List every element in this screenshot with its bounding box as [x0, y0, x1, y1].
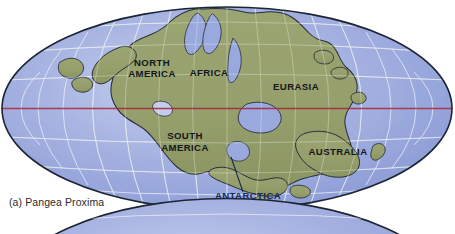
island-east-3	[351, 92, 366, 104]
pangea-proxima-figure: NORTH AMERICA AFRICA EURASIA SOUTH AMERI…	[0, 0, 455, 234]
label-antarctica: ANTARCTICA	[215, 190, 281, 201]
label-south-america-line2: AMERICA	[161, 142, 209, 153]
label-south-america-line1: SOUTH	[167, 130, 203, 141]
island-south-small	[290, 185, 310, 198]
label-australia: AUSTRALIA	[308, 146, 367, 157]
island-east-2	[331, 67, 348, 79]
northwest-island	[58, 58, 83, 78]
bay-central	[238, 102, 281, 133]
label-eurasia: EURASIA	[273, 81, 319, 92]
figure-caption: (a) Pangea Proxima	[9, 196, 104, 208]
label-north-america-line2: AMERICA	[128, 68, 176, 79]
inland-sea-south	[227, 141, 250, 161]
label-north-america-line1: NORTH	[134, 57, 170, 68]
northwest-island-2	[72, 77, 93, 92]
label-africa: AFRICA	[190, 67, 229, 78]
